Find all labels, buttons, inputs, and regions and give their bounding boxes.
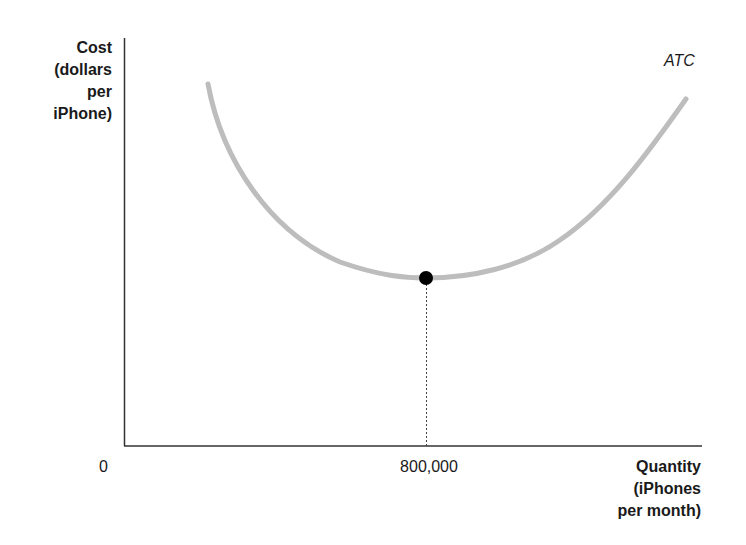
x-axis-label-line: Quantity [560,456,701,478]
x-axis-label-line: (iPhones [560,478,701,500]
x-tick-label: 800,000 [384,458,474,476]
atc-label: ATC [664,52,695,70]
atc-curve [208,84,686,278]
x-axis-label-line: per month) [560,500,701,522]
minimum-point [419,271,433,285]
origin-label: 0 [99,458,108,476]
x-axis-label: Quantity (iPhones per month) [560,456,701,522]
